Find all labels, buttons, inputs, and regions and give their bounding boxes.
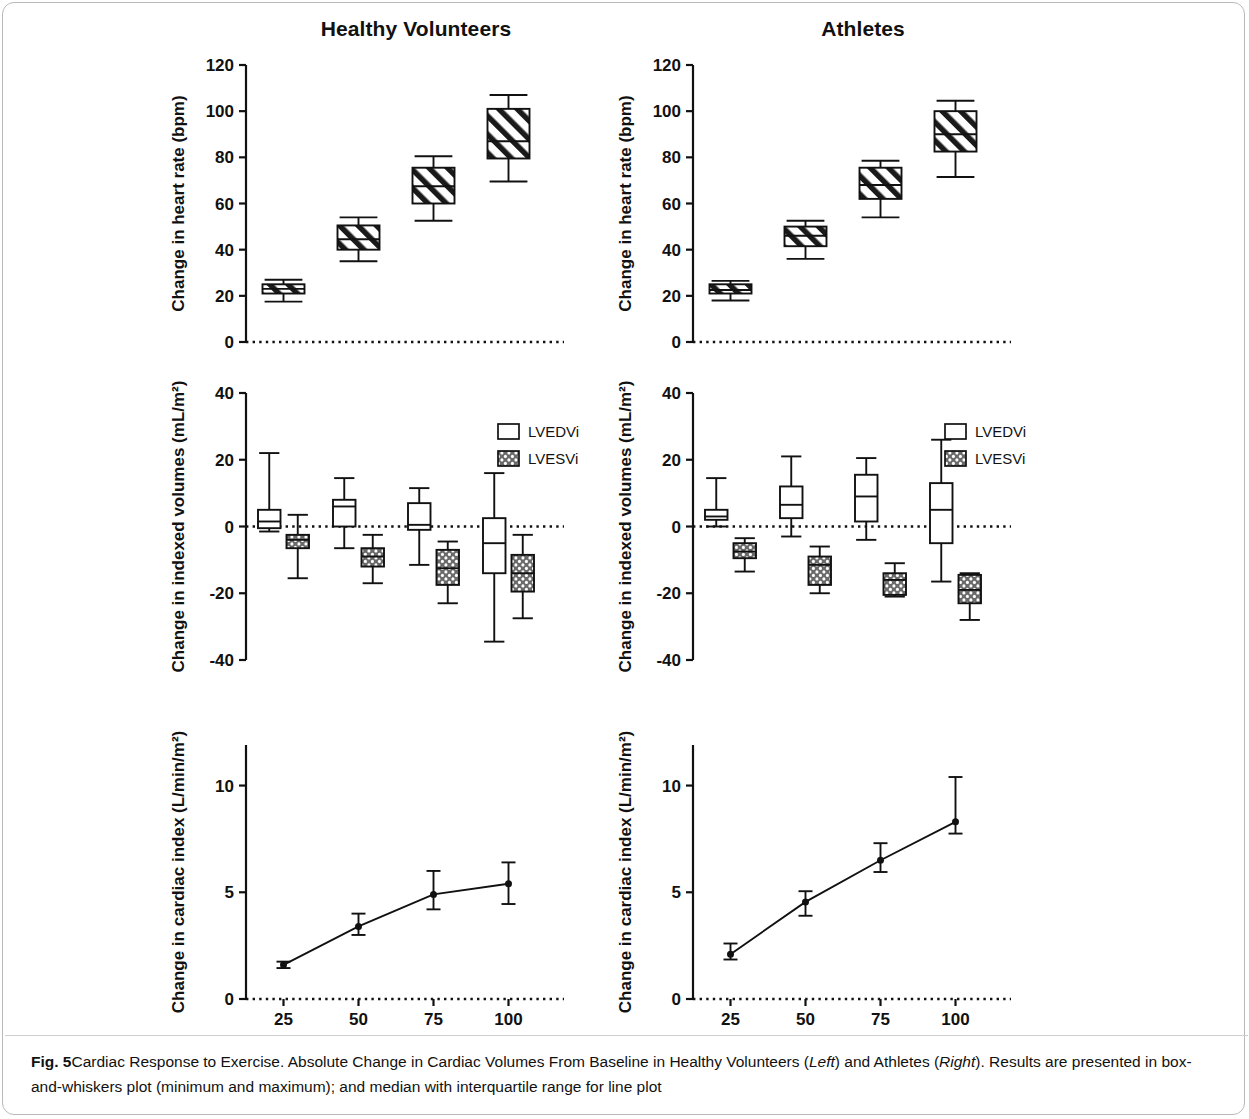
figure-frame: Healthy Volunteers Athletes 020406080100… (2, 2, 1245, 1115)
y-tick-label: 10 (215, 777, 234, 796)
x-tick-label: 50 (349, 1010, 368, 1029)
data-point-marker (802, 898, 809, 905)
y-axis-title: Change in heart rate (bpm) (616, 95, 635, 311)
y-tick-label: 40 (662, 384, 681, 403)
legend-swatch-LVESVi (945, 451, 966, 466)
box-body (884, 573, 907, 595)
y-tick-label: 60 (662, 195, 681, 214)
y-tick-label: 20 (215, 451, 234, 470)
x-tick-label: 75 (424, 1010, 443, 1029)
caption-emphasis-right: Right (939, 1053, 975, 1070)
y-tick-label: -40 (656, 651, 681, 670)
box-body (860, 168, 902, 199)
box-body (855, 475, 878, 522)
data-point-marker (952, 818, 959, 825)
legend-swatch-LVEDVi (945, 424, 966, 439)
legend-swatch-LVEDVi (498, 424, 519, 439)
box-plot-item (780, 456, 803, 536)
box-plot-item (338, 217, 380, 261)
y-tick-label: 120 (653, 56, 681, 75)
box-body (287, 535, 310, 548)
box-body (809, 557, 832, 585)
box-body (935, 111, 977, 151)
box-plot-item (362, 535, 385, 583)
box-body (408, 503, 431, 530)
box-plot-item (785, 221, 827, 259)
y-tick-label: -20 (656, 584, 681, 603)
box-plot-item (734, 538, 757, 571)
box-body (780, 486, 803, 518)
y-tick-label: 0 (225, 990, 234, 1009)
caption-text-1: Cardiac Response to Exercise. Absolute C… (71, 1053, 809, 1070)
y-tick-label: 0 (672, 990, 681, 1009)
data-point-marker (727, 951, 734, 958)
y-tick-label: 40 (215, 384, 234, 403)
y-tick-label: 40 (215, 241, 234, 260)
box-plot-item (705, 478, 728, 526)
data-point-marker (355, 923, 362, 930)
box-plot-item (483, 473, 506, 642)
box-plot-item (959, 573, 982, 620)
figure-caption: Fig. 5Cardiac Response to Exercise. Abso… (31, 1049, 1221, 1099)
legend-label-LVEDVi: LVEDVi (528, 423, 579, 440)
x-tick-label: 100 (494, 1010, 522, 1029)
box-plot-item (935, 101, 977, 177)
chart-ci-healthy: 0510Change in cardiac index (L/min/m²)25… (169, 731, 564, 1033)
box-plot-item (333, 478, 356, 548)
box-plot-item (258, 453, 281, 531)
box-plot-item (884, 563, 907, 596)
box-body (705, 510, 728, 520)
y-axis-title: Change in heart rate (bpm) (169, 95, 188, 311)
legend-label-LVESVi: LVESVi (975, 450, 1025, 467)
box-body (930, 483, 953, 543)
y-tick-label: 0 (672, 333, 681, 352)
y-tick-label: 10 (662, 777, 681, 796)
box-plot-item (413, 156, 455, 221)
box-plot-item (263, 280, 305, 302)
y-tick-label: 0 (225, 333, 234, 352)
caption-emphasis-left: Left (809, 1053, 835, 1070)
figure-label: Fig. 5 (31, 1053, 71, 1070)
legend-label-LVESVi: LVESVi (528, 450, 578, 467)
y-tick-label: -20 (209, 584, 234, 603)
data-point-marker (877, 857, 884, 864)
caption-divider (5, 1035, 1248, 1036)
y-tick-label: 20 (662, 451, 681, 470)
y-tick-label: 100 (653, 102, 681, 121)
data-point-marker (430, 891, 437, 898)
box-plot-item (488, 95, 530, 182)
data-point-marker (280, 961, 287, 968)
y-tick-label: 80 (215, 148, 234, 167)
box-body (338, 225, 380, 249)
box-plot-item (860, 161, 902, 218)
y-axis-title: Change in cardiac index (L/min/m²) (616, 731, 635, 1013)
x-tick-label: 50 (796, 1010, 815, 1029)
legend-label-LVEDVi: LVEDVi (975, 423, 1026, 440)
chart-vol-athletes: -40-2002040Change in indexed volumes (mL… (616, 381, 1026, 673)
box-body (258, 510, 281, 528)
x-tick-label: 25 (721, 1010, 740, 1029)
box-plot-item (512, 535, 535, 618)
y-tick-label: 0 (672, 518, 681, 537)
data-point-marker (505, 880, 512, 887)
chart-hr-athletes: 020406080100120Change in heart rate (bpm… (616, 56, 1011, 352)
y-tick-label: 100 (206, 102, 234, 121)
box-body (710, 284, 752, 293)
box-body (488, 109, 530, 159)
x-tick-label: 100 (941, 1010, 969, 1029)
box-body (483, 518, 506, 573)
box-plot-item (408, 488, 431, 565)
figure-charts: 020406080100120Change in heart rate (bpm… (3, 3, 1246, 1033)
legend-swatch-LVESVi (498, 451, 519, 466)
y-tick-label: -40 (209, 651, 234, 670)
box-plot-item (809, 547, 832, 594)
y-tick-label: 20 (215, 287, 234, 306)
y-axis-title: Change in indexed volumes (mL/m²) (169, 381, 188, 673)
y-axis-title: Change in indexed volumes (mL/m²) (616, 381, 635, 673)
chart-hr-healthy: 020406080100120Change in heart rate (bpm… (169, 56, 564, 352)
y-tick-label: 80 (662, 148, 681, 167)
y-tick-label: 40 (662, 241, 681, 260)
y-tick-label: 120 (206, 56, 234, 75)
y-tick-label: 20 (662, 287, 681, 306)
y-tick-label: 60 (215, 195, 234, 214)
